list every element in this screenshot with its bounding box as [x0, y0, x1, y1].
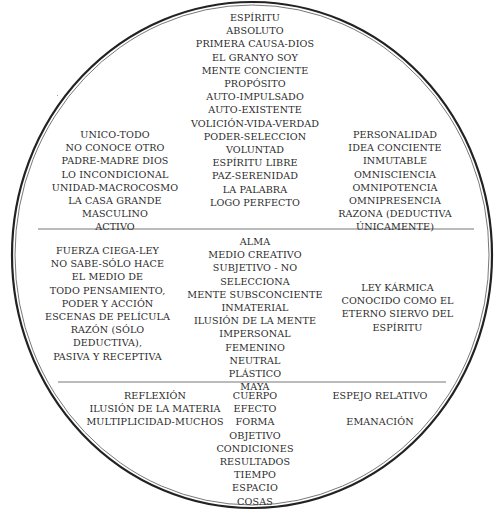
middle-left-item: DEDUCTIVA),: [40, 336, 175, 349]
top-center-item: PODER-SELECCION: [170, 130, 340, 143]
top-center-item: AUTO-EXISTENTE: [170, 103, 340, 116]
top-center-item: EL GRANYO SOY: [170, 51, 340, 64]
top-left-item: UNICO-TODO: [50, 128, 180, 141]
bottom-right-item: EMANACIÓN: [325, 415, 435, 428]
top-left-item: LO INCONDICIONAL: [50, 168, 180, 181]
top-center-item: MENTE CONCIENTE: [170, 64, 340, 77]
middle-right-item: ETERNO SIERVO DEL: [330, 307, 465, 320]
top-right-list: PERSONALIDAD IDEA CONCIENTE INMUTABLE OM…: [325, 128, 465, 234]
top-left-list: UNICO-TODO NO CONOCE OTRO PADRE-MADRE DI…: [50, 128, 180, 234]
top-center-list: ESPÍRITU ABSOLUTO PRIMERA CAUSA-DIOS EL …: [170, 11, 340, 209]
top-right-item: IDEA CONCIENTE: [325, 141, 465, 154]
bottom-left-item: ILUSIÓN DE LA MATERIA: [85, 402, 225, 415]
middle-center-item: NEUTRAL: [175, 354, 335, 367]
middle-right-item: LEY KÁRMICA: [330, 281, 465, 294]
middle-left-list: FUERZA CIEGA-LEY NO SABE-SÓLO HACE EL ME…: [40, 244, 175, 363]
top-center-item: LA PALABRA: [170, 183, 340, 196]
top-left-item: LA CASA GRANDE: [50, 194, 180, 207]
bottom-right-item: [325, 402, 435, 415]
bottom-center-item: ESPACIO: [195, 481, 315, 494]
middle-right-item: ESPÍRITU: [330, 321, 465, 334]
bottom-center-item: OBJETIVO: [195, 429, 315, 442]
top-left-item: UNIDAD-MACROCOSMO: [50, 181, 180, 194]
middle-left-item: PASIVA Y RECEPTIVA: [40, 350, 175, 363]
bottom-center-item: CONDICIONES: [195, 442, 315, 455]
middle-center-item: PLÁSTICO: [175, 367, 335, 380]
top-center-item: LOGO PERFECTO: [170, 196, 340, 209]
middle-center-item: MEDIO CREATIVO: [175, 248, 335, 261]
bottom-center-item: COSAS: [195, 495, 315, 508]
bottom-center-item: RESULTADOS: [195, 455, 315, 468]
middle-left-item: RAZÓN (SÓLO: [40, 323, 175, 336]
top-right-item: OMNIPOTENCIA: [325, 181, 465, 194]
top-right-item: INMUTABLE: [325, 154, 465, 167]
top-right-item: PERSONALIDAD: [325, 128, 465, 141]
middle-right-item: CONOCIDO COMO EL: [330, 294, 465, 307]
top-center-item: PAZ-SERENIDAD: [170, 169, 340, 182]
top-right-item: OMNIPRESENCIA: [325, 194, 465, 207]
middle-center-item: ALMA: [175, 235, 335, 248]
bottom-left-item: MULTIPLICIDAD-MUCHOS: [85, 415, 225, 428]
middle-left-item: TODO PENSAMIENTO,: [40, 284, 175, 297]
bottom-right-item: ESPEJO RELATIVO: [325, 389, 435, 402]
top-center-item: PROPÓSITO: [170, 77, 340, 90]
top-right-item: RAZONA (DEDUCTIVA: [325, 207, 465, 220]
bottom-center-item: TIEMPO: [195, 468, 315, 481]
top-left-item: MASCULINO: [50, 207, 180, 220]
bottom-left-item: REFLEXIÓN: [85, 389, 225, 402]
middle-center-item: MENTE SUBSCONCIENTE: [175, 288, 335, 301]
stray-dot: [57, 95, 58, 96]
top-center-item: AUTO-IMPULSADO: [170, 90, 340, 103]
middle-left-item: EL MEDIO DE: [40, 270, 175, 283]
top-center-item: ESPÍRITU LIBRE: [170, 156, 340, 169]
top-left-item: ACTIVO: [50, 220, 180, 233]
middle-left-item: NO SABE-SÓLO HACE: [40, 257, 175, 270]
bottom-right-list: ESPEJO RELATIVO EMANACIÓN: [325, 389, 435, 428]
middle-center-item: IMPERSONAL: [175, 327, 335, 340]
top-center-item: ABSOLUTO: [170, 24, 340, 37]
top-center-item: VOLUNTAD: [170, 143, 340, 156]
middle-center-item: SUBJETIVO - NO: [175, 261, 335, 274]
bottom-left-list: REFLEXIÓN ILUSIÓN DE LA MATERIA MULTIPLI…: [85, 389, 225, 429]
top-right-item: OMNISCIENCIA: [325, 168, 465, 181]
top-center-item: VOLICIÓN-VIDA-VERDAD: [170, 117, 340, 130]
top-left-item: NO CONOCE OTRO: [50, 141, 180, 154]
middle-right-list: LEY KÁRMICA CONOCIDO COMO EL ETERNO SIER…: [330, 281, 465, 334]
middle-center-item: SELECCIONA: [175, 275, 335, 288]
middle-center-item: ILUSIÓN DE LA MENTE: [175, 314, 335, 327]
middle-center-list: ALMA MEDIO CREATIVO SUBJETIVO - NO SELEC…: [175, 235, 335, 393]
middle-center-item: FEMENINO: [175, 341, 335, 354]
middle-left-item: PODER Y ACCIÓN: [40, 297, 175, 310]
top-left-item: PADRE-MADRE DIOS: [50, 154, 180, 167]
middle-center-item: INMATERIAL: [175, 301, 335, 314]
top-center-item: ESPÍRITU: [170, 11, 340, 24]
top-right-item: ÚNICAMENTE): [325, 220, 465, 233]
top-center-item: PRIMERA CAUSA-DIOS: [170, 37, 340, 50]
middle-left-item: FUERZA CIEGA-LEY: [40, 244, 175, 257]
middle-left-item: ESCENAS DE PELÍCULA: [40, 310, 175, 323]
